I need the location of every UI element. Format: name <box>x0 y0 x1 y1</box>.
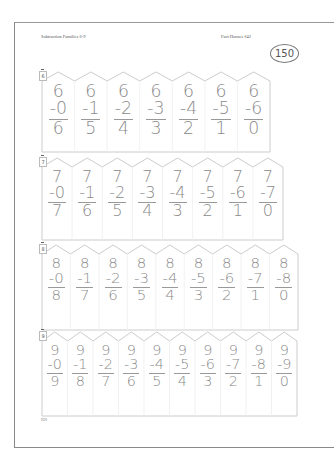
minuend: 9 <box>76 343 85 357</box>
difference: 1 <box>254 374 263 388</box>
difference: 0 <box>280 374 289 388</box>
difference: 3 <box>150 120 161 137</box>
fact-column: 7-70 <box>253 169 283 219</box>
fact-column: 8-71 <box>241 256 269 303</box>
difference: 3 <box>203 374 212 388</box>
difference: 6 <box>53 120 64 137</box>
difference: 7 <box>52 203 62 219</box>
difference: 5 <box>152 374 161 388</box>
difference: 3 <box>172 203 182 219</box>
page-number-badge: 150 <box>270 44 299 63</box>
subtrahend: -3 <box>146 100 165 119</box>
subtrahend: -2 <box>114 100 133 119</box>
minuend: 9 <box>229 343 238 357</box>
minuend: 9 <box>101 343 110 357</box>
fact-column: 9-27 <box>93 343 119 388</box>
fact-column: 7-43 <box>163 169 193 219</box>
fact-column: 7-25 <box>102 169 132 219</box>
house-label-tag: 6 <box>39 71 47 81</box>
difference: 4 <box>178 374 187 388</box>
difference: 2 <box>183 120 194 137</box>
fact-column: 8-08 <box>42 256 70 303</box>
fact-column: 8-17 <box>70 256 98 303</box>
difference: 4 <box>165 288 175 303</box>
fact-column: 9-36 <box>119 343 145 388</box>
difference: 4 <box>142 203 152 219</box>
worksheet-subtitle: Fact Houses #42 <box>221 34 251 39</box>
difference: 0 <box>279 288 289 303</box>
difference: 2 <box>229 374 238 388</box>
difference: 4 <box>118 120 129 137</box>
fact-column: 7-07 <box>42 169 72 219</box>
difference: 7 <box>101 374 110 388</box>
difference: 0 <box>263 203 273 219</box>
subtrahend: -9 <box>276 357 292 373</box>
difference: 5 <box>112 203 122 219</box>
minuend: 9 <box>178 343 187 357</box>
difference: 2 <box>222 288 232 303</box>
fact-house-9: 99-099-189-279-369-459-549-639-729-819-9… <box>42 332 297 416</box>
fact-column: 8-53 <box>184 256 212 303</box>
subtrahend: -0 <box>47 357 63 373</box>
fact-column: 9-81 <box>246 343 272 388</box>
fact-column: 6-60 <box>237 83 270 137</box>
fact-column: 6-33 <box>140 83 173 137</box>
subtrahend: -0 <box>49 100 68 119</box>
fact-column: 9-54 <box>170 343 196 388</box>
minuend: 9 <box>50 343 59 357</box>
difference: 0 <box>248 120 259 137</box>
subtrahend: -5 <box>211 100 230 119</box>
fact-column: 6-42 <box>172 83 205 137</box>
difference: 5 <box>137 288 147 303</box>
house-label-tag: 9 <box>39 331 47 341</box>
subtrahend: -3 <box>123 357 139 373</box>
fact-column: 8-35 <box>127 256 155 303</box>
difference: 6 <box>108 288 118 303</box>
difference: 8 <box>76 374 85 388</box>
difference: 1 <box>216 120 227 137</box>
difference: 7 <box>80 288 90 303</box>
fact-house-6: 66-066-156-246-336-426-516-60 <box>42 72 270 152</box>
difference: 9 <box>50 374 59 388</box>
subtrahend: -5 <box>174 357 190 373</box>
difference: 5 <box>85 120 96 137</box>
difference: 2 <box>203 203 213 219</box>
subtrahend: -7 <box>225 357 241 373</box>
fact-column: 6-24 <box>107 83 140 137</box>
house-label-tag: 8 <box>39 244 47 254</box>
fact-column: 6-15 <box>75 83 108 137</box>
minuend: 9 <box>127 343 136 357</box>
fact-column: 7-16 <box>72 169 102 219</box>
footer-page-code: H26 <box>41 418 47 422</box>
minuend: 9 <box>203 343 212 357</box>
subtrahend: -6 <box>244 100 263 119</box>
subtrahend: -4 <box>179 100 198 119</box>
fact-column: 9-09 <box>42 343 68 388</box>
worksheet-title: Subtraction Families 6-9 <box>41 34 86 39</box>
difference: 1 <box>233 203 243 219</box>
fact-column: 7-34 <box>132 169 162 219</box>
house-label-tag: 7 <box>39 157 47 167</box>
fact-column: 6-06 <box>42 83 75 137</box>
fact-column: 8-44 <box>156 256 184 303</box>
subtrahend: -2 <box>98 357 114 373</box>
difference: 6 <box>82 203 92 219</box>
subtrahend: -6 <box>200 357 216 373</box>
subtrahend: -4 <box>149 357 165 373</box>
fact-column: 7-61 <box>223 169 253 219</box>
fact-column: 6-51 <box>205 83 238 137</box>
subtrahend: -1 <box>81 100 100 119</box>
fact-column: 9-90 <box>272 343 298 388</box>
difference: 1 <box>251 288 261 303</box>
subtrahend: -1 <box>72 357 88 373</box>
fact-column: 7-52 <box>193 169 223 219</box>
difference: 8 <box>51 288 61 303</box>
difference: 6 <box>127 374 136 388</box>
minuend: 9 <box>152 343 161 357</box>
subtrahend: -8 <box>251 357 267 373</box>
fact-column: 9-45 <box>144 343 170 388</box>
fact-column: 8-26 <box>99 256 127 303</box>
fact-column: 9-72 <box>221 343 247 388</box>
fact-column: 9-63 <box>195 343 221 388</box>
fact-house-7: 77-077-167-257-347-437-527-617-70 <box>42 158 283 240</box>
